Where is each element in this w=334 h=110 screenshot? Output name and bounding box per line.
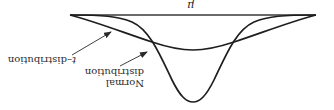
normal-distribution-label-line1: Normal [106,78,144,89]
t-distribution-curve [70,15,316,50]
normal-distribution-arrow [120,52,147,66]
t-distribution-arrow [72,32,111,55]
diagram-canvas: μ t–distribution Normal distribution [0,0,334,110]
t-distribution-label: t–distribution [7,55,76,66]
normal-distribution-label-line2: distribution [84,67,144,78]
mu-label: μ [187,0,194,12]
distribution-comparison-figure: μ t–distribution Normal distribution [0,0,334,110]
t-distribution-label-suffix: –distribution [7,55,72,66]
